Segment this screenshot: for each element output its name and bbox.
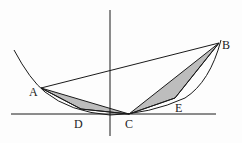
- label-C: C: [125, 117, 133, 131]
- chord-EB: [175, 43, 219, 98]
- label-B: B: [222, 38, 230, 52]
- diagram-canvas: A B C D E: [0, 0, 242, 143]
- triangle-BCE-shaded: [129, 43, 219, 114]
- label-E: E: [175, 101, 182, 115]
- parabola-diagram: A B C D E: [0, 0, 242, 143]
- triangle-ACD-shaded: [41, 88, 129, 114]
- label-A: A: [29, 85, 38, 99]
- label-D: D: [74, 117, 83, 131]
